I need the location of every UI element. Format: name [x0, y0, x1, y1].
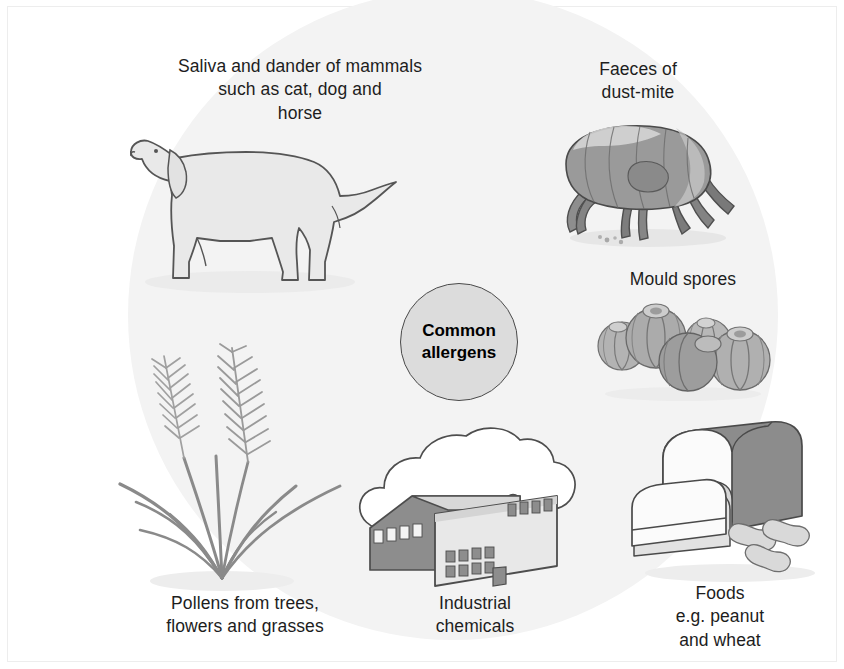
center-node-label: Common allergens	[422, 320, 497, 364]
allergen-diagram: Saliva and dander of mammals such as cat…	[0, 0, 844, 669]
dust-mite-illustration	[528, 116, 758, 256]
dog-illustration	[100, 110, 400, 300]
bread-and-peanuts-illustration	[630, 418, 835, 588]
label-dustmite: Faeces of dust-mite	[548, 58, 728, 105]
grass-illustration	[100, 338, 390, 598]
center-node: Common allergens	[400, 283, 518, 401]
mould-spores-illustration	[588, 298, 778, 404]
label-mould: Mould spores	[588, 268, 778, 291]
label-foods: Foods e.g. peanut and wheat	[635, 582, 805, 652]
